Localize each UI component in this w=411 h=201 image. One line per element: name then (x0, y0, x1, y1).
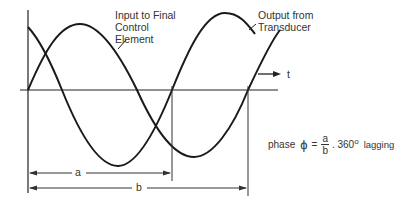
phi-symbol: ϕ (300, 137, 307, 152)
phase-lag-diagram: Input to Final Control Element Output fr… (0, 0, 411, 201)
input-label-line-3: Element (115, 33, 154, 45)
b-dimension-label: b (136, 181, 142, 193)
fraction-denominator: b (322, 145, 328, 156)
formula-suffix: lagging (364, 139, 395, 150)
output-label-line-1: Output from (258, 9, 313, 21)
formula-equals: = (312, 139, 318, 150)
b-left-arrowhead-icon (29, 186, 37, 191)
input-label-line-2: Control (115, 21, 149, 33)
input-label-line-1: Input to Final (115, 9, 176, 21)
b-right-arrowhead-icon (239, 186, 247, 191)
waveform-plot (0, 0, 411, 201)
output-label-line-2: Transducer (258, 21, 311, 33)
a-right-arrowhead-icon (163, 171, 171, 176)
a-dimension-label: a (75, 166, 81, 178)
time-arrowhead-icon (273, 71, 281, 77)
degree-sign: o (354, 137, 358, 146)
fraction-numerator: a (321, 133, 329, 145)
time-axis-label: t (287, 68, 290, 80)
a-left-arrowhead-icon (29, 171, 37, 176)
formula-fraction: a b (321, 133, 329, 156)
phase-formula: phase ϕ = a b . 360 o lagging (268, 130, 394, 158)
formula-prefix: phase (268, 139, 295, 150)
formula-multiplier: . 360 (332, 139, 354, 150)
